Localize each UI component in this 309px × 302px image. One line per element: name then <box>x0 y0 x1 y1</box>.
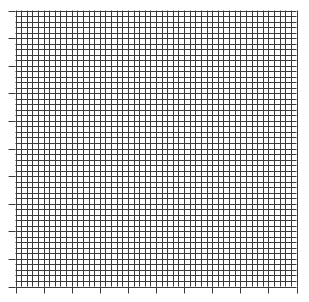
grid-chart <box>0 0 309 302</box>
grid-lines <box>16 11 298 288</box>
axis-ticks <box>9 12 298 294</box>
